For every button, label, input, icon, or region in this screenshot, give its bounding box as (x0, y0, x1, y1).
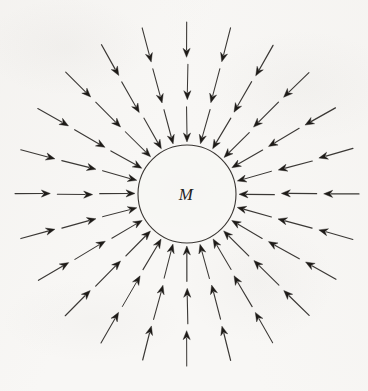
gravitational-field-figure: M (0, 0, 368, 391)
mass-label: M (179, 185, 194, 205)
